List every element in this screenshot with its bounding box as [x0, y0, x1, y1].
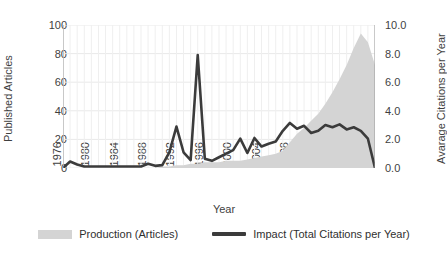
- x-axis-tick-label: 1976: [51, 142, 63, 166]
- y-axis-right-tick-label: 4.0: [385, 105, 400, 117]
- y-axis-right-tick-label: 2.0: [385, 133, 400, 145]
- legend-item-impact: Impact (Total Citations per Year): [212, 228, 410, 240]
- y-axis-right-tick-label: 0.0: [385, 162, 400, 174]
- y-axis-right-title: Avarage Citations per Year: [435, 16, 447, 182]
- legend-label-impact: Impact (Total Citations per Year): [253, 228, 410, 240]
- y-axis-right-tick-label: 10.0: [385, 19, 406, 31]
- chart-legend: Production (Articles) Impact (Total Cita…: [0, 228, 448, 240]
- line-swatch-icon: [212, 232, 246, 236]
- y-axis-right-tick-label: 8.0: [385, 48, 400, 60]
- chart-figure: Published Articles Avarage Citations per…: [0, 0, 448, 257]
- plot-area: [63, 25, 375, 168]
- plot-svg: [63, 25, 375, 168]
- x-axis-title: Year: [0, 203, 448, 215]
- legend-label-production: Production (Articles): [79, 228, 178, 240]
- y-axis-left-title: Published Articles: [2, 20, 14, 178]
- area-swatch-icon: [38, 230, 72, 239]
- legend-item-production: Production (Articles): [38, 228, 178, 240]
- y-axis-right-tick-label: 6.0: [385, 76, 400, 88]
